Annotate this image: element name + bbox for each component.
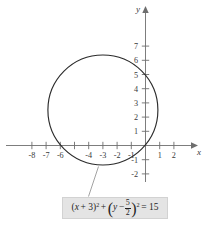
y-tick-label-1: 1 xyxy=(134,127,138,136)
x-tick-label-1: 1 xyxy=(158,151,162,160)
x-tick-label-2: 2 xyxy=(172,151,176,160)
eq-frac-numerator: 5 xyxy=(125,199,131,207)
y-axis-arrowhead xyxy=(142,6,148,13)
x-tick-label--6: -6 xyxy=(57,151,64,160)
eq-var-y: y xyxy=(113,203,117,213)
y-tick-label-7: 7 xyxy=(134,42,138,51)
figure-container: -8 -7 -6 -4 -3 -2 -1 1 2 -2 -1 1 2 3 4 5… xyxy=(0,0,211,237)
y-tick-label-3: 3 xyxy=(134,99,138,108)
y-tick-label-4: 4 xyxy=(134,85,138,94)
eq-plus-three: + 3 xyxy=(80,203,92,213)
x-tick-label--3: -3 xyxy=(99,151,106,160)
eq-exponent-2: 2 xyxy=(137,202,140,208)
x-tick-label--8: -8 xyxy=(28,151,35,160)
x-tick-label--7: -7 xyxy=(43,151,50,160)
eq-plus: + xyxy=(101,203,106,213)
equation-callout-box: (x+ 3)2+(y−52)2= 15 xyxy=(62,197,168,219)
x-tick-label--2: -2 xyxy=(114,151,121,160)
eq-exponent-1: 2 xyxy=(96,202,99,208)
y-tick-label-6: 6 xyxy=(134,56,138,65)
eq-var-x: x xyxy=(75,203,79,213)
eq-frac-denominator: 2 xyxy=(125,208,131,217)
eq-fraction: 52 xyxy=(125,199,131,216)
equation-text: (x+ 3)2+(y−52)2= 15 xyxy=(71,199,158,216)
y-tick-label--2: -2 xyxy=(131,170,138,179)
y-tick-label-5: 5 xyxy=(134,71,138,80)
eq-minus: − xyxy=(119,203,124,213)
y-tick-label-2: 2 xyxy=(134,113,138,122)
callout-leader-line xyxy=(89,167,99,197)
x-tick-label--4: -4 xyxy=(85,151,92,160)
y-axis-label: y xyxy=(135,4,140,14)
eq-equals-fifteen: = 15 xyxy=(141,203,158,213)
x-axis-label: x xyxy=(196,147,201,157)
